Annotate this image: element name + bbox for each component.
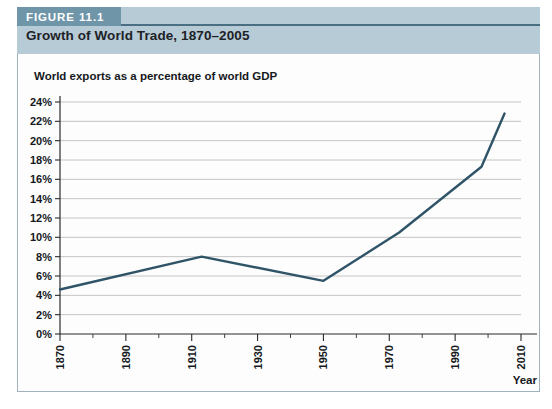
x-axis-tick-label: 1870 bbox=[54, 345, 66, 369]
data-series-line bbox=[60, 114, 505, 290]
y-axis-tick-label: 14% bbox=[30, 193, 52, 205]
figure-number-tab: FIGURE 11.1 bbox=[17, 7, 121, 26]
y-axis-tick-label: 10% bbox=[30, 231, 52, 243]
y-axis-tick-label: 22% bbox=[30, 115, 52, 127]
chart-panel: World exports as a percentage of world G… bbox=[17, 54, 540, 392]
figure-title: Growth of World Trade, 1870–2005 bbox=[26, 28, 250, 43]
tab-underline-rule bbox=[121, 24, 540, 26]
figure-container: FIGURE 11.1 Growth of World Trade, 1870–… bbox=[0, 0, 552, 409]
y-axis-tick-label: 8% bbox=[36, 251, 52, 263]
x-axis-tick-label: 1990 bbox=[449, 345, 461, 369]
y-axis-tick-label: 6% bbox=[36, 270, 52, 282]
y-axis-tick-label: 20% bbox=[30, 135, 52, 147]
x-axis-tick-label: 1930 bbox=[252, 345, 264, 369]
x-axis-tick-label: 1910 bbox=[186, 345, 198, 369]
line-chart-plot: 0%2%4%6%8%10%12%14%16%18%20%22%24%187018… bbox=[18, 54, 539, 390]
y-axis-tick-label: 16% bbox=[30, 173, 52, 185]
figure-header-band: FIGURE 11.1 Growth of World Trade, 1870–… bbox=[17, 7, 540, 54]
x-axis-title: Year bbox=[513, 374, 538, 386]
x-axis-tick-label: 2010 bbox=[515, 345, 527, 369]
x-axis-tick-label: 1890 bbox=[120, 345, 132, 369]
y-axis-tick-label: 24% bbox=[30, 96, 52, 108]
y-axis-tick-label: 2% bbox=[36, 309, 52, 321]
x-axis-tick-label: 1950 bbox=[317, 345, 329, 369]
y-axis-tick-label: 4% bbox=[36, 289, 52, 301]
y-axis-tick-label: 0% bbox=[36, 328, 52, 340]
y-axis-tick-label: 12% bbox=[30, 212, 52, 224]
y-axis-tick-label: 18% bbox=[30, 154, 52, 166]
x-axis-tick-label: 1970 bbox=[383, 345, 395, 369]
figure-number-label: FIGURE 11.1 bbox=[26, 11, 104, 23]
